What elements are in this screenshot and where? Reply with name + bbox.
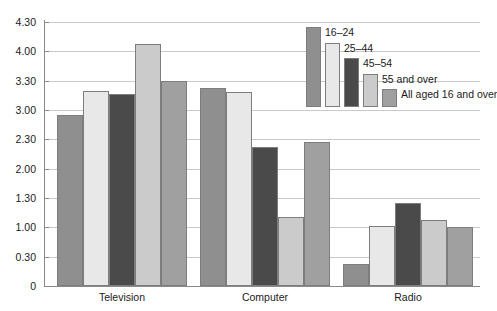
category-label: Television [99,291,145,303]
bar [278,217,304,286]
bar [161,81,187,286]
legend-label: 25–44 [344,42,373,54]
bar [200,88,226,286]
bar [421,220,447,286]
bar [83,91,109,286]
bar [395,203,421,286]
bar [304,142,330,286]
legend-label: All aged 16 and over [401,88,497,100]
bar [135,44,161,286]
bar [369,226,395,286]
legend-swatch [363,74,378,107]
legend-label: 45–54 [363,57,392,69]
legend-swatch [306,27,321,107]
legend: 16–2425–4445–5455 and overAll aged 16 an… [306,27,482,105]
bar [252,147,278,286]
legend-swatch [344,58,359,107]
bar [109,94,135,286]
bar [57,115,83,286]
bar [226,92,252,286]
legend-label: 16–24 [325,26,354,38]
legend-swatch [382,89,397,107]
category-label: Computer [242,291,288,303]
bar [343,264,369,286]
legend-swatch [325,43,340,107]
bar [447,227,473,286]
legend-label: 55 and over [382,73,437,85]
category-label: Radio [394,291,421,303]
